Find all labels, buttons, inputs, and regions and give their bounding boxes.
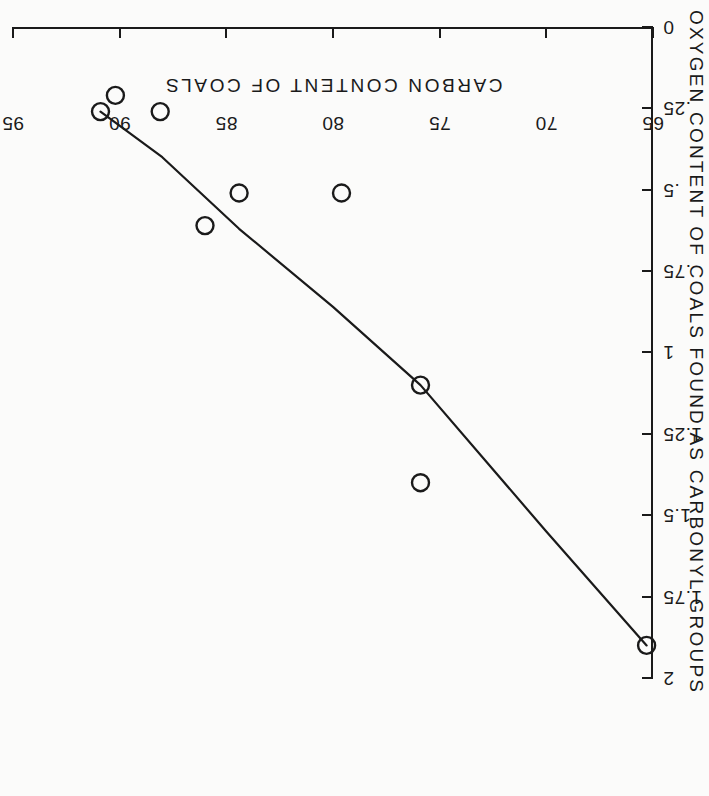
y-axis-tick (642, 107, 653, 109)
figure-page: 657075808590950.25.5.7511.251.51.752 CAR… (0, 0, 709, 796)
x-axis-tick-label: 70 (535, 112, 557, 134)
x-axis-tick (332, 27, 334, 38)
rotated-figure-container: 657075808590950.25.5.7511.251.51.752 CAR… (0, 0, 709, 796)
x-axis-tick-label: 95 (2, 112, 24, 134)
data-point-marker (152, 103, 169, 120)
y-axis-tick (642, 433, 653, 435)
y-axis-tick (642, 352, 653, 354)
y-axis-tick (642, 514, 653, 516)
x-axis-tick (119, 27, 121, 38)
data-point-marker (231, 185, 248, 202)
y-axis-tick (642, 189, 653, 191)
x-axis-tick (652, 27, 654, 38)
y-axis-tick (642, 270, 653, 272)
y-axis-tick (642, 26, 653, 28)
x-axis-tick-label: 85 (215, 112, 237, 134)
x-axis-tick (12, 27, 14, 38)
x-axis-tick-label: 90 (109, 112, 131, 134)
data-point-markers (92, 87, 655, 654)
fit-line (101, 112, 647, 646)
y-axis-tick (642, 677, 653, 679)
x-axis-tick-label: 75 (429, 112, 451, 134)
x-axis-tick-label: 65 (642, 112, 664, 134)
x-axis-tick-label: 80 (322, 112, 344, 134)
x-axis-tick (545, 27, 547, 38)
y-axis-tick (642, 596, 653, 598)
x-axis-tick (439, 27, 441, 38)
y-axis-title: OXYGEN CONTENT OF COALS FOUND AS CARBONY… (683, 27, 709, 678)
data-point-marker (412, 474, 429, 491)
data-point-marker (197, 217, 214, 234)
x-axis-title: CARBON CONTENT OF COALS (13, 74, 653, 96)
x-axis-tick (225, 27, 227, 38)
data-point-marker (333, 185, 350, 202)
